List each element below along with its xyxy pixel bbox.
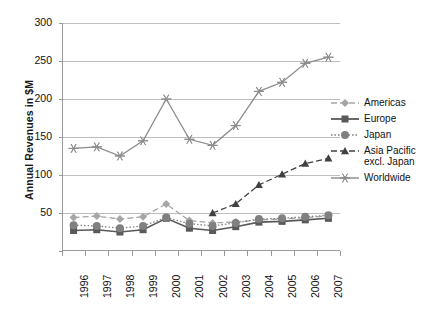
legend-label: Japan [364,129,391,140]
y-tick-label: 200 [34,92,52,104]
data-point [185,220,193,228]
x-tick-label: 2003 [240,275,252,298]
data-point [232,219,240,227]
legend-marker-triangle-icon [330,145,360,156]
data-point [139,213,147,221]
legend-marker-asterisk-icon [330,172,360,183]
x-tick-mark [108,251,109,256]
data-point [69,144,79,153]
data-point [254,87,264,96]
y-axis-tick-labels: 50100150200250300 [0,23,58,251]
data-point [93,222,101,230]
x-tick-mark [224,251,225,256]
data-point [255,181,263,188]
y-tick-label: 50 [40,206,52,218]
legend-item[interactable]: Europe [330,113,448,124]
series-americas [70,200,333,227]
data-point [92,143,102,152]
x-tick-mark [155,251,156,256]
x-tick-mark [317,251,318,256]
series-line [213,158,329,213]
data-point [278,170,286,177]
data-point [209,222,217,230]
data-point [162,214,170,222]
y-tick-label: 250 [34,54,52,66]
x-tick-label: 2007 [332,275,344,298]
data-point [70,214,78,222]
x-tick-mark [294,251,295,256]
x-axis-ticks [62,251,340,257]
x-tick-label: 2002 [217,275,229,298]
y-tick-label: 100 [34,168,52,180]
x-tick-mark [178,251,179,256]
x-tick-mark [340,251,341,256]
x-tick-label: 1997 [101,275,113,298]
y-tick-label: 150 [34,130,52,142]
x-tick-mark [85,251,86,256]
x-tick-label: 2004 [263,275,275,298]
series-asia-pacific-excl.-japan [209,154,333,216]
data-point [161,95,171,104]
y-tick-label: 300 [34,16,52,28]
x-tick-label: 2006 [309,275,321,298]
series-worldwide [69,53,334,160]
legend-marker-circle-icon [330,129,360,140]
x-tick-label: 1999 [147,275,159,298]
x-tick-mark [247,251,248,256]
legend-label: Worldwide [364,172,411,183]
data-point [116,215,124,223]
legend-item[interactable]: Worldwide [330,172,448,183]
x-tick-label: 2000 [170,275,182,298]
x-tick-mark [201,251,202,256]
legend-marker-diamond-icon [330,97,360,108]
legend-item[interactable]: Asia Pacific excl. Japan [330,145,448,167]
legend-item[interactable]: Japan [330,129,448,140]
x-tick-mark [132,251,133,256]
data-point [70,221,78,229]
legend-item[interactable]: Americas [330,97,448,108]
x-tick-label: 2001 [193,275,205,298]
series-line [74,57,329,156]
x-tick-mark [271,251,272,256]
data-point [255,215,263,223]
data-point [93,212,101,220]
data-point [323,53,333,62]
data-point [184,135,194,144]
legend-label: Asia Pacific excl. Japan [364,145,416,167]
data-point [324,211,332,219]
x-axis-tick-labels: 1996199719981999200020012002200320042005… [62,258,340,308]
legend-label: Americas [364,97,406,108]
data-point [116,224,124,232]
x-tick-label: 1998 [124,275,136,298]
legend-marker-square-icon [330,113,360,124]
chart-legend: AmericasEuropeJapanAsia Pacific excl. Ja… [330,97,448,188]
data-point [278,214,286,222]
line-chart: Annual Revenues in $M 50100150200250300 … [0,0,448,316]
data-point [209,209,217,216]
series-layer [62,23,340,251]
legend-label: Europe [364,113,396,124]
data-point [139,222,147,230]
data-point [301,213,309,221]
x-tick-mark [62,251,63,256]
x-tick-label: 2005 [286,275,298,298]
x-tick-label: 1996 [78,275,90,298]
